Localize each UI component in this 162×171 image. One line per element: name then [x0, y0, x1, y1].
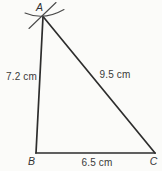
vertex-label-c: C	[150, 155, 158, 167]
vertex-label-a: A	[35, 1, 43, 13]
side-label-ac: 9.5 cm	[99, 69, 130, 80]
side-label-ab: 7.2 cm	[6, 71, 37, 82]
vertex-label-b: B	[28, 155, 35, 167]
side-label-bc: 6.5 cm	[81, 157, 112, 168]
triangle-side-ab	[36, 17, 43, 154]
triangle-diagram: A B C 7.2 cm 9.5 cm 6.5 cm	[0, 0, 162, 171]
triangle-side-ac	[43, 17, 155, 154]
triangle-construction-figure: A B C 7.2 cm 9.5 cm 6.5 cm	[0, 0, 162, 171]
